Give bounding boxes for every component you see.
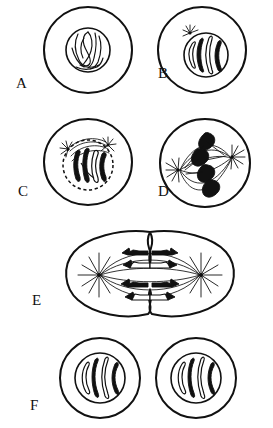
panel-label-b: B [158,65,168,81]
panel-a: A [16,7,132,93]
chromosome-open [132,294,150,300]
panel-label-f: F [30,397,38,413]
daughter-cell-right [156,338,236,418]
panel-d: D [158,119,250,207]
mitosis-figure-svg: A B [0,0,273,428]
panel-b: B [158,7,246,93]
chromosome-solid [152,282,172,287]
panel-f: F [30,338,236,418]
chromosome-solid [128,282,148,287]
cell-membrane-with-furrow [66,231,234,316]
panel-label-e: E [32,292,41,308]
panel-label-d: D [158,183,169,199]
daughter-cell-left [60,338,140,418]
panel-e: E [32,231,234,316]
panel-c: C [18,119,132,205]
panel-label-a: A [16,75,27,91]
chromosome-solid [152,250,172,255]
chromosome-open [150,262,170,268]
mitosis-diagram: A B [0,0,273,428]
chromosome-open [150,294,168,300]
panel-label-c: C [18,183,28,199]
cell-membrane [44,119,132,205]
chromosome-open [130,262,150,268]
chromosome-solid [128,250,148,255]
